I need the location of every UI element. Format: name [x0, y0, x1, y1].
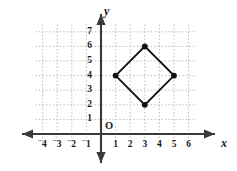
y-tick-label-6: 6	[87, 41, 92, 51]
x-tick-label-neg4: −4	[38, 140, 47, 150]
graph-canvas	[0, 0, 237, 171]
x-axis-arrow-right	[204, 129, 215, 138]
y-tick-label-3: 3	[87, 85, 92, 95]
y-axis-arrow-down	[96, 152, 105, 163]
vertex-point-2	[171, 73, 177, 79]
x-axis-arrow-left	[22, 129, 33, 138]
x-tick-label-2: 2	[128, 140, 133, 150]
y-tick-label-7: 7	[87, 27, 92, 37]
x-tick-label-4: 4	[157, 140, 162, 150]
y-axis-name-label: y	[104, 5, 109, 17]
grid-lines	[35, 25, 196, 142]
vertex-point-1	[142, 44, 148, 50]
coordinate-plane-figure: −4−3−2−11234561234567Oxy	[0, 0, 237, 171]
origin-label: O	[105, 121, 113, 132]
x-axis-name-label: x	[221, 137, 227, 149]
x-tick-label-3: 3	[142, 140, 147, 150]
x-tick-label-1: 1	[113, 140, 118, 150]
vertex-point-0	[113, 73, 119, 79]
y-tick-label-5: 5	[87, 56, 92, 66]
x-tick-label-neg1: −1	[82, 140, 91, 150]
x-tick-label-6: 6	[186, 140, 191, 150]
x-tick-label-neg3: −3	[53, 140, 62, 150]
y-tick-label-1: 1	[87, 114, 92, 124]
y-tick-label-2: 2	[87, 100, 92, 110]
vertex-point-3	[142, 102, 148, 108]
x-tick-label-neg2: −2	[68, 140, 77, 150]
x-tick-label-5: 5	[172, 140, 177, 150]
y-tick-label-4: 4	[87, 71, 92, 81]
